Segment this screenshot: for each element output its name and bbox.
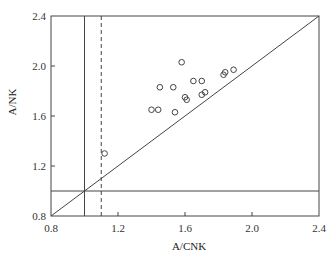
x-axis-ticks: 0.81.21.62.02.4 [44,212,326,234]
x-tick-label: 2.4 [312,222,326,234]
y-tick-label: 2.4 [32,10,46,22]
data-point-circle-icon [155,107,161,113]
y-tick-label: 1.2 [32,160,46,172]
y-axis-ticks: 0.81.21.62.02.4 [32,10,55,222]
data-point-circle-icon [191,78,197,84]
data-points [102,59,237,156]
data-point-circle-icon [157,84,163,90]
x-tick-label: 1.2 [111,222,125,234]
y-tick-label: 0.8 [32,210,46,222]
data-point-circle-icon [231,67,237,73]
data-point-circle-icon [149,107,155,113]
x-tick-label: 2.0 [245,222,259,234]
x-tick-label: 1.6 [178,222,192,234]
diagonal-reference-line-3 [51,16,319,216]
data-point-circle-icon [179,59,185,65]
y-axis-label: A/NK [6,89,18,116]
x-tick-label: 0.8 [44,222,58,234]
scatter-chart: 0.81.21.62.02.4 0.81.21.62.02.4 A/CNK A/… [0,0,335,259]
reference-lines [51,16,319,216]
data-point-circle-icon [170,84,176,90]
data-point-circle-icon [172,109,178,115]
y-tick-label: 1.6 [32,110,46,122]
data-point-circle-icon [199,78,205,84]
y-tick-label: 2.0 [32,60,46,72]
data-point-circle-icon [102,151,108,157]
x-axis-label: A/CNK [172,240,206,252]
